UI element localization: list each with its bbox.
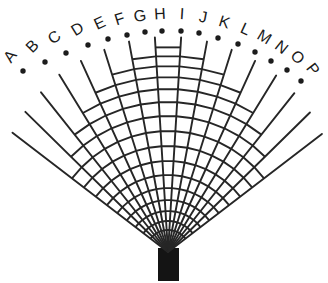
ray-endpoint-dot-j (196, 30, 201, 35)
ray-label-l: L (238, 19, 253, 38)
ray-endpoint-dot-p (298, 78, 303, 83)
stem-group (158, 248, 179, 281)
arc-ring-11 (83, 89, 253, 113)
arc-ring-9 (71, 116, 265, 156)
fan-diagram-svg: ABCDEFGHIJKLMNOP (0, 0, 328, 283)
ray-label-o: O (287, 47, 308, 68)
ray-endpoint-dot-m (252, 49, 257, 54)
arc-ring-14 (132, 56, 203, 59)
ray-label-m: M (255, 26, 275, 47)
ray-label-a: A (0, 47, 20, 66)
ray-label-e: E (91, 13, 108, 33)
ray-label-p: P (303, 60, 323, 79)
ray-label-n: N (272, 37, 292, 58)
ray-endpoint-dot-c (63, 50, 68, 55)
ray-label-g: G (132, 6, 147, 25)
ray-endpoint-dot-g (142, 29, 147, 34)
arc-ring-6 (96, 161, 240, 196)
ray-endpoint-dot-k (215, 35, 220, 40)
arc-ring-13 (112, 66, 224, 74)
fan-diagram-figure: ABCDEFGHIJKLMNOP (0, 0, 328, 283)
ray-label-b: B (22, 36, 42, 56)
ray-label-d: D (68, 19, 87, 40)
ray-labels-group: ABCDEFGHIJKLMNOP (0, 5, 323, 79)
ray-label-i: I (179, 5, 184, 22)
ray-label-h: H (154, 5, 167, 23)
ray-endpoint-dot-e (105, 36, 110, 41)
ray-endpoint-dot-i (178, 28, 183, 33)
ray-label-f: F (112, 9, 127, 28)
ray-endpoint-dot-f (124, 32, 129, 37)
ray-endpoint-dot-h (159, 28, 164, 33)
rays-group (13, 37, 322, 252)
ray-label-c: C (44, 27, 64, 48)
ray-endpoint-dot-a (20, 68, 25, 73)
ray-endpoint-dot-d (85, 42, 90, 47)
ray-label-k: K (217, 12, 233, 32)
fan-stem (158, 248, 179, 281)
ray-endpoint-dot-b (42, 59, 47, 64)
ray-endpoint-dot-o (284, 67, 289, 72)
ray-endpoint-dot-l (235, 41, 240, 46)
arc-ring-7 (84, 146, 252, 187)
ray-label-j: J (198, 8, 209, 26)
ray-endpoint-dot-n (268, 58, 273, 63)
